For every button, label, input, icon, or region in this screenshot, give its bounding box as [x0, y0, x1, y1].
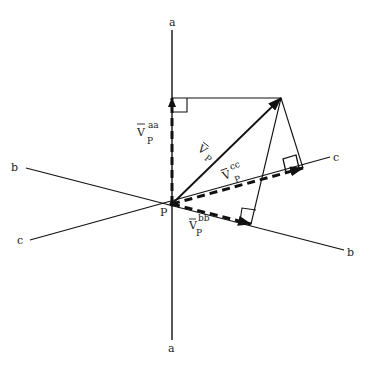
perp-to-c-line: [281, 98, 303, 168]
axis-b-label-right: b: [347, 246, 354, 259]
label-vp-bb: V bb P: [188, 213, 210, 238]
axis-c-label-left: c: [17, 234, 23, 247]
svg-text:bb: bb: [198, 213, 210, 223]
axis-b-label-left: b: [11, 161, 18, 174]
axis-a-label-top: a: [169, 16, 176, 29]
point-p-marker: [170, 202, 175, 207]
svg-text:P: P: [147, 136, 153, 146]
label-vp: V P: [193, 142, 216, 165]
svg-text:aa: aa: [148, 120, 159, 130]
svg-text:V: V: [136, 126, 146, 139]
perp-to-b-line: [251, 98, 281, 224]
vector-projection-diagram: a a b b c c P V aa P V P V cc P V bb P: [0, 0, 369, 367]
point-p-label: P: [160, 206, 168, 219]
svg-text:cc: cc: [228, 159, 241, 172]
axis-b-line: [26, 168, 344, 250]
right-angle-c-icon: [283, 155, 299, 172]
axis-c-label-right: c: [333, 151, 339, 164]
svg-text:P: P: [196, 228, 202, 238]
right-angle-a-icon: [172, 98, 187, 112]
axis-a-label-bottom: a: [168, 342, 175, 355]
svg-text:P: P: [203, 153, 214, 165]
vector-vp-bb: [172, 204, 251, 224]
label-vp-aa: V aa P: [136, 120, 159, 146]
